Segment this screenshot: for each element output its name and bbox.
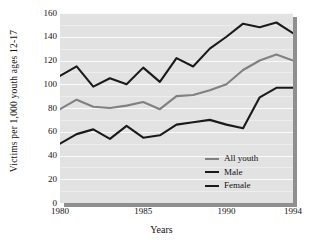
- y-tick-label: 160: [24, 9, 57, 18]
- legend-item: All youth: [205, 152, 289, 166]
- series-line-male: [60, 23, 293, 87]
- y-tick-label: 20: [24, 175, 57, 184]
- chart-legend: All youthMaleFemale: [205, 152, 289, 193]
- legend-label: Male: [224, 166, 243, 180]
- legend-item: Female: [205, 179, 289, 193]
- x-tick-label: 1994: [273, 206, 313, 216]
- legend-label: All youth: [224, 152, 258, 166]
- y-axis-title: Victims per 1,000 youth ages 12-17: [9, 11, 19, 191]
- x-tick-label: 1985: [123, 206, 163, 216]
- x-axis-title: Years: [0, 224, 323, 235]
- x-tick-label: 1990: [206, 206, 246, 216]
- y-tick-label: 100: [24, 80, 57, 89]
- legend-swatch-icon: [205, 171, 219, 173]
- legend-swatch-icon: [205, 185, 219, 187]
- y-tick-label: 40: [24, 151, 57, 160]
- legend-swatch-icon: [205, 158, 219, 160]
- y-tick-label: 80: [24, 104, 57, 113]
- y-tick-label: 120: [24, 56, 57, 65]
- y-tick-label: 60: [24, 127, 57, 136]
- line-chart: Victims per 1,000 youth ages 12-17 02040…: [0, 0, 323, 247]
- x-tick-label: 1980: [40, 206, 80, 216]
- legend-item: Male: [205, 166, 289, 180]
- legend-label: Female: [224, 179, 251, 193]
- y-tick-label: 140: [24, 32, 57, 41]
